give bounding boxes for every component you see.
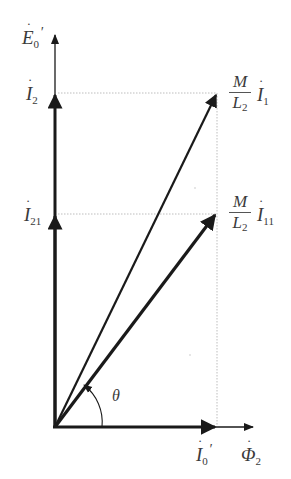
dot-accent: ˙ <box>198 439 203 453</box>
i2-label: ˙I2 <box>26 84 38 103</box>
numerator: M <box>233 73 247 91</box>
m-over-l2-fraction-1: M L2 <box>229 73 251 113</box>
numerator: M <box>233 193 247 211</box>
m-l2-i1-vector <box>55 95 216 427</box>
subscript: 11 <box>263 215 274 227</box>
scan-speck <box>189 354 190 355</box>
subscript: 2 <box>242 221 248 233</box>
subscript: 21 <box>30 215 41 227</box>
dot-accent: ˙ <box>259 79 264 93</box>
dot-accent: ˙ <box>26 199 31 213</box>
subscript: 2 <box>32 94 38 106</box>
i1-label: ˙I1 <box>257 85 269 104</box>
i21-label: ˙I21 <box>24 205 41 224</box>
theta-label: θ <box>112 387 120 405</box>
dot-accent: ˙ <box>259 199 264 213</box>
denominator: L <box>233 93 242 112</box>
scan-speck <box>194 187 195 188</box>
m-l2-i11-vector <box>55 215 215 427</box>
subscript: 1 <box>263 95 269 107</box>
m-over-l2-fraction-11: M L2 <box>229 193 251 233</box>
phasor-diagram <box>0 0 291 479</box>
denominator: L <box>233 213 242 232</box>
dot-accent: ˙ <box>247 439 252 453</box>
subscript: 2 <box>242 101 248 113</box>
dot-accent: ˙ <box>28 78 33 92</box>
prime: ′ <box>209 442 212 457</box>
prime: ′ <box>40 25 43 40</box>
subscript: 2 <box>255 455 261 467</box>
subscript: 0 <box>202 455 208 467</box>
e0-prime-label: ˙E0′ <box>22 28 43 47</box>
theta-arc <box>84 385 102 427</box>
phi2-label: ˙Φ2 <box>241 445 261 464</box>
subscript: 0 <box>34 38 40 50</box>
dot-accent: ˙ <box>26 22 31 36</box>
i0-prime-label: ˙I0′ <box>196 445 212 464</box>
i11-label: ˙I11 <box>257 205 274 224</box>
